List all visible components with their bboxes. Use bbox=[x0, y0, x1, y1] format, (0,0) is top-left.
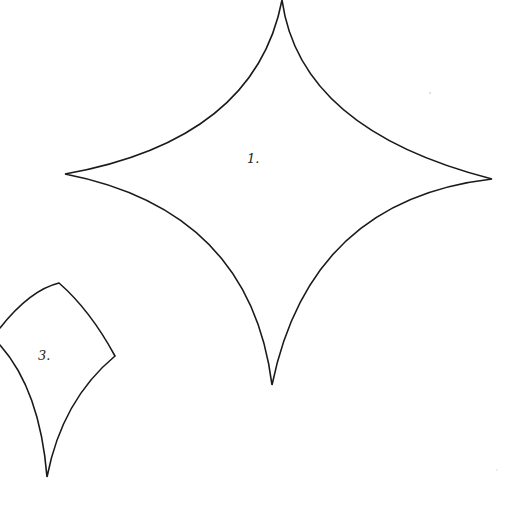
kite-shape-outline bbox=[0, 283, 115, 477]
template-drawing-canvas bbox=[0, 0, 511, 511]
kite-shape-label: 3. bbox=[38, 349, 50, 362]
scan-speck bbox=[496, 469, 498, 471]
scan-speck bbox=[429, 92, 431, 94]
star-shape-outline bbox=[65, 0, 492, 385]
star-shape-label: 1. bbox=[247, 152, 259, 165]
